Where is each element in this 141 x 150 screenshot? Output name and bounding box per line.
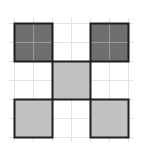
square-fill <box>15 100 53 138</box>
light-square <box>53 62 91 100</box>
square-fill <box>53 62 91 100</box>
light-square <box>15 100 53 138</box>
square-fill <box>91 100 129 138</box>
light-square <box>91 100 129 138</box>
dark-square <box>91 24 129 62</box>
grid-diagram <box>0 0 141 150</box>
dark-square <box>15 24 53 62</box>
